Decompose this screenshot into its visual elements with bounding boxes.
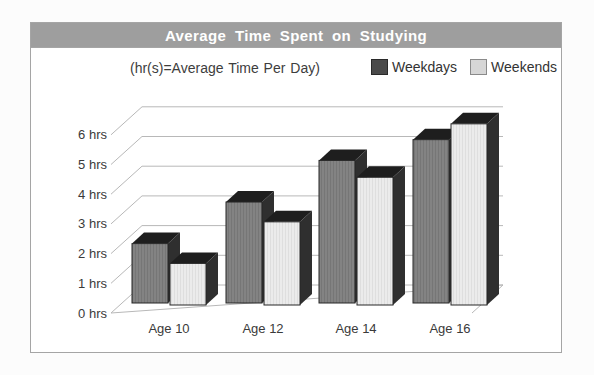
bar-weekends-age-14-side-face: [393, 166, 405, 305]
bar-weekends-age-16-side-face: [487, 113, 499, 305]
gridline-connector-5: [111, 137, 142, 165]
legend: Weekdays Weekends: [371, 57, 557, 76]
bar-weekends-age-10-front-face: [170, 263, 206, 305]
bar-weekdays-age-10-front-face: [132, 244, 168, 303]
y-tick-label-0: 0 hrs: [78, 306, 107, 321]
chart-title: Average Time Spent on Studying: [165, 27, 427, 44]
y-tick-label-3: 3 hrs: [78, 216, 107, 231]
x-category-label-age-10: Age 10: [148, 321, 189, 336]
bar-weekends-age-14-front-face: [357, 177, 393, 305]
legend-label-weekdays: Weekdays: [392, 59, 457, 75]
y-tick-label-4: 4 hrs: [78, 187, 107, 202]
chart-subtitle: (hr(s)=Average Time Per Day): [130, 60, 320, 76]
x-category-label-age-12: Age 12: [242, 321, 283, 336]
chart-title-bar: Average Time Spent on Studying: [30, 22, 562, 48]
bar-weekdays-age-14-front-face: [319, 160, 355, 303]
gridline-connector-6: [111, 107, 142, 135]
legend-label-weekends: Weekends: [491, 59, 557, 75]
x-category-label-age-16: Age 16: [429, 321, 470, 336]
y-tick-label-2: 2 hrs: [78, 246, 107, 261]
y-tick-label-6: 6 hrs: [78, 127, 107, 142]
bar-weekends-age-16-front-face: [451, 124, 487, 305]
bar-weekends-age-12-side-face: [300, 211, 312, 305]
x-category-label-age-14: Age 14: [335, 321, 376, 336]
gridline-connector-4: [111, 166, 142, 194]
y-tick-label-5: 5 hrs: [78, 157, 107, 172]
y-tick-label-1: 1 hrs: [78, 276, 107, 291]
legend-swatch-weekends: [470, 59, 487, 75]
bar-weekdays-age-16-front-face: [413, 140, 449, 303]
bar-weekdays-age-12-front-face: [226, 202, 262, 303]
bar-weekends-age-12-front-face: [264, 222, 300, 305]
legend-swatch-weekdays: [371, 59, 388, 75]
gridline-connector-3: [111, 196, 142, 224]
